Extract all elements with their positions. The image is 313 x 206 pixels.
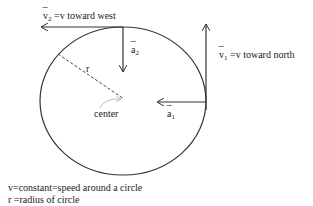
a2-label: a2 [131, 45, 139, 57]
note-speed: v=constant=speed around a circle [8, 182, 142, 194]
radius-dashed-line [58, 54, 124, 99]
a1-label: a1 [167, 109, 175, 121]
a2-symbol: a [131, 45, 135, 55]
v2-symbol: v [43, 11, 48, 21]
a1-subscript: 1 [171, 113, 175, 121]
v2-label: v2 =v toward west [43, 11, 116, 23]
v1-text: =v toward north [228, 49, 295, 60]
v1-symbol: v [219, 50, 224, 60]
a1-symbol: a [167, 109, 171, 119]
note-radius: r =radius of circle [8, 194, 79, 206]
v2-text: =v toward west [52, 10, 116, 21]
center-pointer-arrow [100, 99, 121, 108]
a2-subscript: 2 [135, 49, 139, 57]
v1-label: v1 =v toward north [219, 50, 295, 62]
radius-label: r [86, 64, 89, 74]
circular-motion-diagram [0, 0, 313, 206]
center-label: center [94, 109, 118, 119]
